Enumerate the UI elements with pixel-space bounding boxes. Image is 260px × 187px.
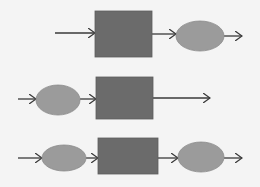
state-ellipse	[176, 21, 224, 51]
process-box	[96, 77, 153, 119]
state-ellipse	[42, 145, 86, 171]
process-box	[95, 11, 152, 57]
process-box	[98, 138, 158, 174]
flow-diagram	[0, 0, 260, 187]
state-ellipse	[178, 142, 224, 172]
state-ellipse	[36, 85, 80, 115]
